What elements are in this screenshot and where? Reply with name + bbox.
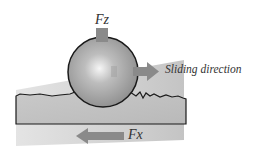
sphere	[68, 37, 138, 107]
diagram-canvas: Fz Sliding direction Fx	[0, 0, 277, 155]
sliding-direction-label: Sliding direction	[165, 63, 242, 76]
normal-force-arrow	[96, 28, 108, 42]
normal-force-label: Fz	[94, 12, 110, 27]
friction-force-label: Fx	[127, 127, 144, 142]
